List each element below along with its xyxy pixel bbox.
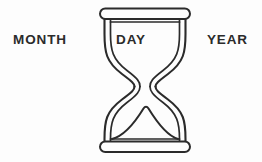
hourglass-icon	[0, 0, 262, 162]
label-year: YEAR	[207, 33, 248, 47]
bottom-cap	[100, 142, 190, 153]
top-cap	[100, 9, 190, 20]
lower-bulb-outer-path	[105, 87, 135, 143]
lower-bulb-inner-path	[111, 87, 141, 143]
lower-bulb-inner-path-right	[150, 87, 180, 143]
upper-bulb-outer-path-right	[156, 19, 186, 87]
upper-bulb-outer-path	[105, 19, 135, 87]
sand-mound-path	[112, 107, 178, 139]
hourglass-diagram: MONTH DAY YEAR	[0, 0, 262, 162]
